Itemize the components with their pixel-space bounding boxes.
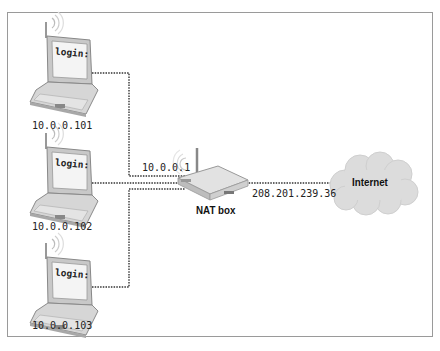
client-3-ip: 10.0.0.103 — [32, 320, 92, 331]
laptop-client-1 — [30, 12, 98, 117]
router-internal-ip: 10.0.0.1 — [142, 162, 190, 173]
client-1-ip: 10.0.0.101 — [32, 120, 92, 131]
internet-label: Internet — [352, 176, 388, 188]
router-external-ip: 208.201.239.36 — [252, 188, 336, 199]
laptop-client-2 — [30, 123, 98, 228]
client-2-ip: 10.0.0.102 — [32, 221, 92, 232]
router-label: NAT box — [196, 204, 235, 216]
nat-router-icon — [173, 148, 248, 200]
